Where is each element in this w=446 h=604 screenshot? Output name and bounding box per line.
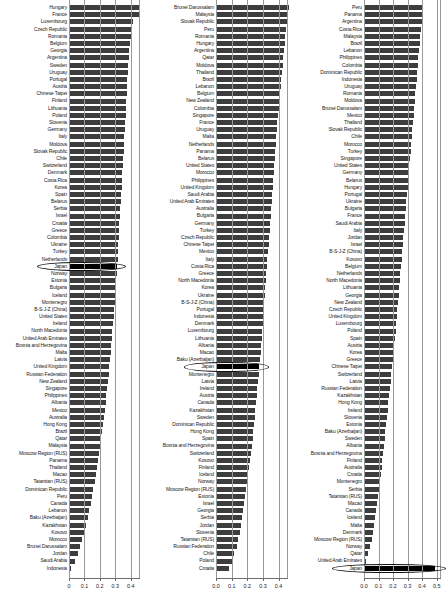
bar-row-label: Denmark <box>296 529 364 536</box>
bar-track <box>364 486 444 493</box>
bar <box>364 77 417 82</box>
bar-track <box>69 169 148 176</box>
bar-row: Slovenia <box>0 119 148 126</box>
bar-row-label: Peru <box>148 26 216 33</box>
bar-track <box>69 435 148 442</box>
bar-row-label: Georgia <box>0 47 69 54</box>
bar <box>216 379 258 384</box>
bar-row-label: Belarus <box>0 198 69 205</box>
bar-track <box>364 212 444 219</box>
bar-row: Romania <box>148 33 296 40</box>
bar-row-label: Bosnia and Herzegovina <box>0 342 69 349</box>
bar-track <box>364 33 444 40</box>
bar-row-label: Poland <box>296 327 364 334</box>
bar-row: Dominican Republic <box>296 69 444 76</box>
bar-track <box>69 565 148 572</box>
bar-track <box>216 220 296 227</box>
bar <box>69 19 133 24</box>
bar-row: Turkey <box>296 148 444 155</box>
bar <box>69 214 120 219</box>
bar <box>364 293 399 298</box>
bar <box>216 408 255 413</box>
bar <box>364 170 409 175</box>
bar-row-label: Austria <box>296 342 364 349</box>
bar-row-label: Greece <box>0 227 69 234</box>
bar-track <box>216 112 296 119</box>
bar-track <box>69 529 148 536</box>
axis-tick <box>216 578 217 581</box>
bar <box>216 99 279 104</box>
bar-row: Lebanon <box>296 47 444 54</box>
panel-1: HungaryFranceLuxembourgCzech RepublicRom… <box>0 0 148 604</box>
bar-row-label: Canada <box>0 500 69 507</box>
bar <box>216 106 279 111</box>
bar-track <box>364 184 444 191</box>
bar-row-label: Lithuania <box>0 105 69 112</box>
bar-row-label: North Macedonia <box>0 327 69 334</box>
bar-row-label: Belarus <box>148 155 216 162</box>
bar <box>216 192 272 197</box>
bar <box>364 55 418 60</box>
bar-row-label: Albania <box>148 342 216 349</box>
bar <box>69 321 113 326</box>
bar <box>216 134 276 139</box>
bar-row: Hong Kong <box>148 428 296 435</box>
axis-tick-label: 0.3 <box>404 583 412 589</box>
bar-track <box>69 335 148 342</box>
bar <box>364 551 368 556</box>
bar-row-label: United Kingdom <box>0 363 69 370</box>
bar-track <box>216 284 296 291</box>
bar-row: Ukraine <box>148 292 296 299</box>
bar-row-label: Netherlands <box>0 256 69 263</box>
bar-row-label: United Kingdom <box>148 184 216 191</box>
bar-track <box>69 177 148 184</box>
bar-row: Malaysia <box>148 11 296 18</box>
bar-track <box>216 105 296 112</box>
bar <box>364 48 419 53</box>
bar <box>364 357 393 362</box>
bar-track <box>364 40 444 47</box>
bar <box>69 508 89 513</box>
bar <box>216 27 286 32</box>
bar <box>216 170 274 175</box>
bar-row: Costa Rica <box>148 263 296 270</box>
bar <box>364 199 406 204</box>
bar-track <box>216 256 296 263</box>
bar-track <box>69 18 148 25</box>
bar-row-label: Jordan <box>296 234 364 241</box>
bar-row-label: Spain <box>0 191 69 198</box>
bar-row: Baku (Azerbaijan) <box>0 514 148 521</box>
bar-row: Panama <box>148 148 296 155</box>
bar-row-label: Slovak Republic <box>296 126 364 133</box>
bar-row-label: Jordan <box>0 550 69 557</box>
bar <box>364 41 420 46</box>
bar-row-label: Qatar <box>296 550 364 557</box>
bar-row: New Zealand <box>148 97 296 104</box>
bar <box>69 199 121 204</box>
bar <box>216 185 273 190</box>
bar-row-label: Panama <box>0 457 69 464</box>
bar <box>216 271 266 276</box>
bar <box>364 221 405 226</box>
bar <box>69 242 118 247</box>
bar-row-label: Serbia <box>0 205 69 212</box>
bar-row: Ireland <box>0 320 148 327</box>
bar-highlighted <box>69 264 117 269</box>
bar-track <box>69 133 148 140</box>
bar <box>216 508 243 513</box>
bar-row: Morocco <box>296 141 444 148</box>
bar <box>216 444 252 449</box>
bar-track <box>216 18 296 25</box>
bar-row-label: Sweden <box>148 414 216 421</box>
bar <box>364 472 381 477</box>
bar <box>69 48 129 53</box>
bar-row-label: Romania <box>148 33 216 40</box>
bar-row: Estonia <box>296 421 444 428</box>
bar <box>364 487 379 492</box>
bar-track <box>69 342 148 349</box>
bar-row: Chinese Taipei <box>148 241 296 248</box>
bar <box>69 408 105 413</box>
bar-track <box>216 378 296 385</box>
bar-row: B-S-J-Z (China) <box>148 299 296 306</box>
bar-track <box>216 126 296 133</box>
